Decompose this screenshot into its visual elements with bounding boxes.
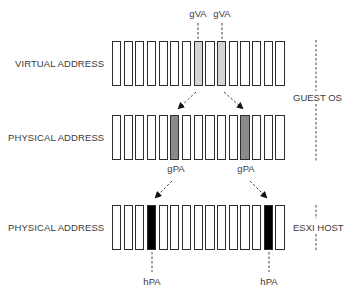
arrow-gpa-to-hpa-1 <box>156 181 172 197</box>
arrow-gva-to-gpa-1 <box>179 92 196 108</box>
guest-os-label: GUEST OS <box>292 92 343 103</box>
arrow-gva-to-gpa-2 <box>224 92 242 108</box>
connector-lines <box>0 0 347 296</box>
memory-address-translation-diagram: VIRTUAL ADDRESS PHYSICAL ADDRESS PHYSICA… <box>0 0 347 296</box>
esxi-host-label: ESXI HOST <box>292 222 345 233</box>
arrow-gpa-to-hpa-2 <box>250 181 266 197</box>
